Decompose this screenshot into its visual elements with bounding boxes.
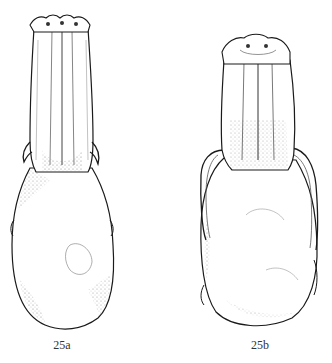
figure-caption-25b: 25b	[240, 338, 280, 353]
figure-caption-25a: 25a	[42, 338, 82, 353]
illustration-plate: 25a 25b	[0, 0, 332, 363]
skull-drawing-25a	[0, 0, 166, 335]
skull-drawing-25b	[166, 0, 332, 335]
skull-illustration-25a	[0, 0, 166, 335]
skull-illustration-25b	[166, 0, 332, 335]
